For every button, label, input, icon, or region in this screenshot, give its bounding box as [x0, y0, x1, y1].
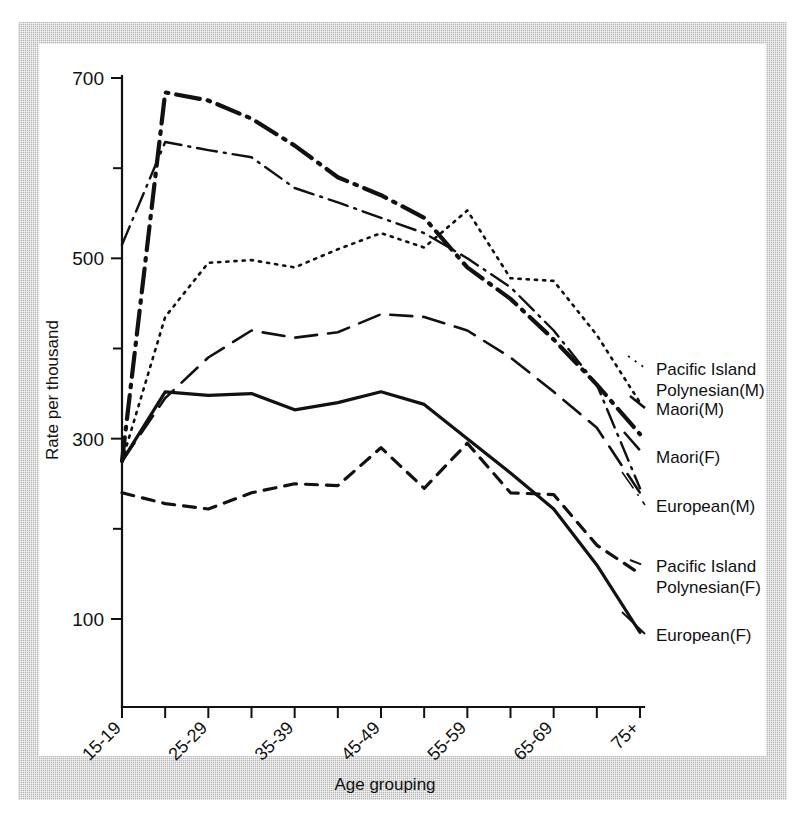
tick-labels-group: 70050030010015-1925-2935-3945-4955-5965-…	[72, 68, 643, 764]
legend-label: European(M)	[656, 497, 755, 516]
x-tick-label: 65-69	[510, 718, 557, 765]
legend-entry-maori_f: Maori(F)	[624, 432, 720, 467]
legend-leader-line	[628, 356, 645, 368]
legend-leader-line	[622, 612, 645, 634]
legend-group: Pacific IslandPolynesian(M)Maori(M)Maori…	[622, 356, 765, 645]
figure-root: 70050030010015-1925-2935-3945-4955-5965-…	[0, 0, 805, 832]
legend-entry-pi_polynesian_m: Pacific IslandPolynesian(M)	[628, 356, 765, 400]
series-lines-group	[122, 92, 640, 632]
y-tick-label: 700	[72, 68, 104, 89]
y-tick-label: 300	[72, 429, 104, 450]
x-tick-label: 75+	[607, 718, 643, 754]
chart-canvas: 70050030010015-1925-2935-3945-4955-5965-…	[0, 0, 805, 832]
legend-label: Maori(M)	[656, 400, 724, 419]
x-tick-label: 15-19	[78, 718, 125, 765]
legend-label-line2: Polynesian(F)	[656, 578, 761, 597]
legend-label: European(F)	[656, 626, 751, 645]
legend-entry-pi_polynesian_f: Pacific IslandPolynesian(F)	[630, 557, 761, 597]
series-line-pacific-island-polynesian-m	[122, 211, 640, 462]
y-tick-label: 500	[72, 248, 104, 269]
y-tick-label: 100	[72, 609, 104, 630]
legend-entry-european_f: European(F)	[622, 612, 751, 645]
x-tick-label: 45-49	[337, 718, 384, 765]
legend-entry-european_m: European(M)	[622, 472, 755, 516]
legend-label: Maori(F)	[656, 448, 720, 467]
x-axis-title: Age grouping	[334, 775, 435, 794]
legend-leader-line	[630, 560, 645, 566]
legend-leader-line	[624, 432, 645, 456]
x-tick-label: 35-39	[251, 718, 298, 765]
legend-leader-line	[622, 472, 645, 505]
legend-label: Pacific Island	[656, 360, 756, 379]
x-tick-label: 25-29	[164, 718, 211, 765]
legend-entry-maori_m: Maori(M)	[630, 396, 724, 419]
legend-label: Pacific Island	[656, 557, 756, 576]
y-axis-title: Rate per thousand	[43, 320, 62, 460]
legend-label-line2: Polynesian(M)	[656, 381, 765, 400]
axes-group	[111, 76, 644, 718]
series-line-pacific-island-polynesian-f	[122, 443, 640, 574]
series-line-european-f	[122, 392, 640, 633]
x-tick-label: 55-59	[423, 718, 470, 765]
